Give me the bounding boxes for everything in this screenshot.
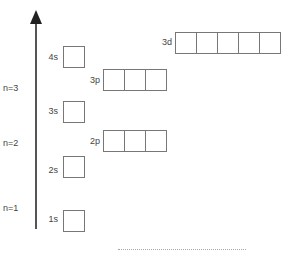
orbital-box (196, 32, 218, 54)
orbital-2p (103, 130, 167, 152)
arrow-up-icon (30, 10, 42, 24)
orbital-box (63, 156, 85, 178)
shell-label-n2: n=2 (3, 138, 18, 148)
energy-axis (35, 18, 37, 229)
orbital-label-2s: 2s (34, 165, 58, 175)
orbital-3d (175, 32, 281, 54)
orbital-box (63, 210, 85, 232)
orbital-box (124, 130, 146, 152)
orbital-box (63, 46, 85, 68)
orbital-box (145, 130, 167, 152)
orbital-box (63, 101, 85, 123)
orbital-box (103, 69, 125, 91)
orbital-box (103, 130, 125, 152)
orbital-box (238, 32, 260, 54)
dotted-divider (118, 249, 246, 250)
orbital-3p (103, 69, 167, 91)
orbital-3s (63, 101, 85, 123)
orbital-label-1s: 1s (34, 214, 58, 224)
orbital-box (124, 69, 146, 91)
orbital-4s (63, 46, 85, 68)
orbital-label-2p: 2p (76, 136, 100, 146)
orbital-box (145, 69, 167, 91)
orbital-label-3d: 3d (148, 37, 172, 47)
orbital-1s (63, 210, 85, 232)
orbital-label-3s: 3s (34, 106, 58, 116)
orbital-box (217, 32, 239, 54)
orbital-box (259, 32, 281, 54)
shell-label-n3: n=3 (3, 83, 18, 93)
orbital-2s (63, 156, 85, 178)
shell-label-n1: n=1 (3, 203, 18, 213)
orbital-label-4s: 4s (34, 52, 58, 62)
orbital-box (175, 32, 197, 54)
orbital-label-3p: 3p (76, 75, 100, 85)
